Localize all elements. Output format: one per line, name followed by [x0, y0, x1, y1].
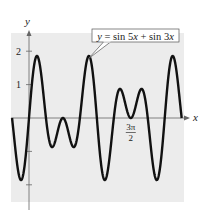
x-axis-arrow-icon: [184, 116, 190, 121]
y-tick-label: 1: [16, 79, 21, 90]
callout-text: y = sin 5x + sin 3x: [96, 31, 174, 42]
callout-text-part2: + sin 3: [138, 31, 169, 42]
callout-text-x2: x: [168, 31, 174, 42]
function-graph: x y 21 3π2 y = sin 5x + sin 3x: [0, 0, 209, 213]
x-tick-label-numerator: 3π: [126, 122, 136, 132]
callout-text-part1: = sin 5: [102, 31, 133, 42]
y-axis-label: y: [24, 15, 30, 27]
y-tick-label: 2: [16, 46, 21, 57]
x-tick-label-denominator: 2: [129, 133, 134, 143]
x-axis-label: x: [192, 111, 198, 123]
